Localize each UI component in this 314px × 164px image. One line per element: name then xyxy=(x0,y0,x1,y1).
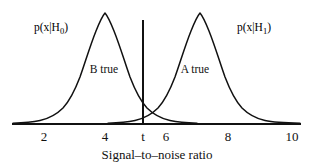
annotation-a-true: A true xyxy=(181,63,209,75)
x-tick-label-t: t xyxy=(141,129,145,144)
label-left-distribution: p(x|H0) xyxy=(34,21,68,36)
annotation-b-true: B true xyxy=(90,63,118,75)
x-tick-label-8: 8 xyxy=(225,129,232,144)
x-axis-title: Signal–to–noise ratio xyxy=(102,147,213,162)
plot-canvas: p(x|H0) p(x|H1) B true A true 2 4 t 6 8 … xyxy=(0,0,314,164)
x-tick-label-10: 10 xyxy=(286,129,299,144)
x-tick-label-6: 6 xyxy=(163,129,170,144)
label-right-distribution-close: ) xyxy=(267,21,271,34)
label-left-distribution-close: ) xyxy=(64,21,68,34)
label-left-distribution-base: p(x|H xyxy=(34,21,60,34)
label-right-distribution: p(x|H1) xyxy=(237,21,271,36)
signal-to-noise-detection-figure: p(x|H0) p(x|H1) B true A true 2 4 t 6 8 … xyxy=(0,0,314,164)
x-tick-label-2: 2 xyxy=(41,129,48,144)
x-tick-label-4: 4 xyxy=(102,129,109,144)
label-right-distribution-base: p(x|H xyxy=(237,21,263,34)
